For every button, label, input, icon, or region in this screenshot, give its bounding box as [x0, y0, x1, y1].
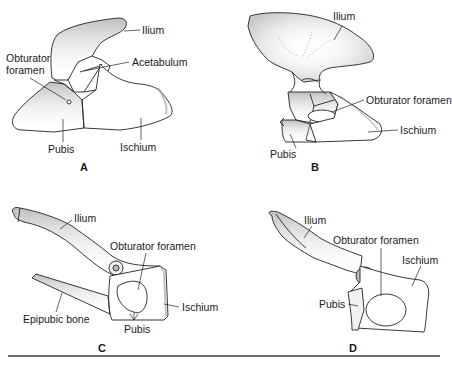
panel-c-label-ischium: Ischium: [182, 301, 218, 313]
panel-a-label-pubis: Pubis: [48, 143, 74, 155]
panel-d-letter: D: [349, 342, 357, 354]
panel-b-ilium-shape: [248, 13, 374, 82]
panel-d-label-obturator-foramen: Obturator foramen: [333, 234, 419, 246]
panel-c-label-pubis: Pubis: [124, 323, 150, 335]
panel-b-label-pubis: Pubis: [270, 148, 296, 160]
panel-a-obturator-foramen: [67, 100, 71, 104]
panel-c-epipubic-bone-shape: [32, 274, 110, 314]
panel-c-drawing: [12, 207, 168, 320]
panel-a-label-obturator-foramen-line1: Obturator: [6, 52, 50, 64]
panel-c-label-obturator-foramen: Obturator foramen: [110, 240, 196, 252]
panel-c-label-ilium: Ilium: [74, 212, 96, 224]
panel-a-label-ilium: Ilium: [142, 24, 164, 36]
panel-a-label-obturator-foramen-line2: foramen: [6, 64, 45, 76]
panel-a-label-acetabulum: Acetabulum: [132, 56, 187, 68]
panel-b-label-ischium: Ischium: [400, 124, 436, 136]
panel-b-drawing: [248, 13, 382, 142]
panel-b-pubis-shape: [282, 120, 316, 142]
bottom-divider-rule: [8, 355, 440, 357]
panel-b-letter: B: [311, 161, 319, 173]
panel-d-drawing: [269, 211, 429, 332]
panel-d-label-ilium: Ilium: [304, 214, 326, 226]
panel-b-label-ilium: Ilium: [333, 10, 355, 22]
panel-b-label-obturator-foramen: Obturator foramen: [366, 94, 452, 106]
panel-a-label-ischium: Ischium: [120, 141, 156, 153]
panel-c-letter: C: [98, 342, 106, 354]
panel-d-obturator-foramen: [366, 294, 406, 326]
panel-a-letter: A: [80, 161, 88, 173]
panel-d-label-pubis: Pubis: [319, 298, 345, 310]
panel-c-label-epipubic-bone: Epipubic bone: [23, 313, 90, 325]
panel-d-label-ischium: Ischium: [402, 254, 438, 266]
